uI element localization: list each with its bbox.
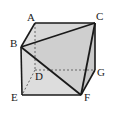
vertex-label-d: D [35,71,43,82]
geometry-figure: A B C D E F G [0,0,113,114]
vertex-label-e: E [11,92,18,103]
vertex-label-c: C [96,11,103,22]
vertex-label-g: G [97,67,105,78]
edge-be [21,47,22,95]
vertex-label-a: A [27,12,35,23]
vertex-label-f: F [84,92,90,103]
vertex-label-b: B [10,38,17,49]
